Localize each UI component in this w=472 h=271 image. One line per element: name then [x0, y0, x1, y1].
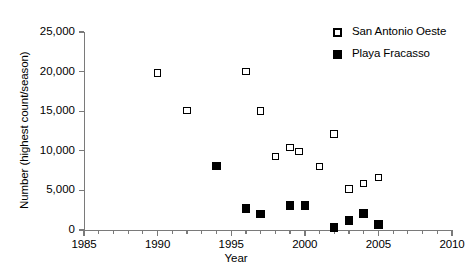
- open-square-icon: [333, 28, 342, 37]
- data-point: [330, 130, 338, 138]
- data-point: [183, 107, 191, 115]
- data-point: [256, 210, 265, 219]
- data-point: [257, 107, 265, 115]
- data-point: [154, 69, 162, 77]
- filled-square-icon: [333, 50, 342, 59]
- legend-label: San Antonio Oeste: [352, 24, 446, 39]
- data-point: [375, 174, 383, 182]
- data-point: [242, 68, 250, 76]
- plot-area: [0, 0, 472, 271]
- data-point: [345, 185, 353, 193]
- data-point: [316, 163, 324, 171]
- data-point: [212, 162, 221, 171]
- data-point: [272, 153, 280, 161]
- data-point: [360, 180, 368, 188]
- legend-label: Playa Fracasso: [352, 46, 430, 61]
- data-point: [295, 148, 303, 156]
- data-point: [345, 216, 354, 225]
- data-point: [286, 144, 294, 152]
- data-point: [374, 220, 383, 229]
- data-point: [330, 223, 339, 232]
- data-point: [242, 204, 251, 213]
- data-point: [359, 209, 368, 218]
- scatter-chart: 05,00010,00015,00020,00025,000 198519901…: [0, 0, 472, 271]
- data-point: [301, 201, 310, 210]
- data-point: [286, 201, 295, 210]
